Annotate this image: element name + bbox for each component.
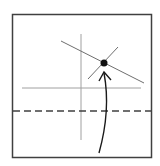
reference-point-dot (101, 60, 108, 67)
diagram-canvas (0, 0, 160, 166)
paper-square (13, 15, 152, 158)
fold-diagram: Fold diagram step fold up to point (0, 0, 160, 166)
